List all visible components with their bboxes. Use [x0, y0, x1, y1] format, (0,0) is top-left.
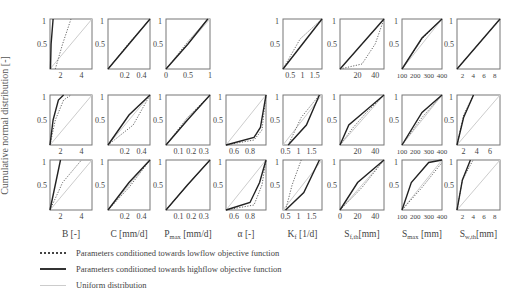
- y-tick-label: 0.5: [153, 116, 163, 125]
- x-tick-label: 0.1: [174, 147, 184, 156]
- y-tick-label: 0.5: [327, 181, 337, 190]
- y-tick-label: 0.5: [327, 40, 337, 49]
- panel-B-row1: 10.524: [37, 17, 92, 80]
- x-tick-label: 40: [371, 147, 379, 156]
- x-tick-label: 300: [423, 148, 434, 156]
- x-tick-label: 100: [397, 72, 408, 80]
- x-tick-label: 200: [410, 148, 421, 156]
- y-tick-label: 0.5: [444, 40, 454, 49]
- x-tick-label: 0.3: [199, 147, 209, 156]
- y-tick-label: 0.5: [270, 116, 280, 125]
- x-tick-label: 0.4: [137, 212, 147, 221]
- y-tick-label: 1: [42, 17, 46, 26]
- column-label-Sf_th: Sf,th[mm]: [344, 229, 379, 240]
- column-label-alpha: α [-]: [238, 229, 255, 239]
- panel-Smax-row3: 10.5100200300400: [389, 158, 448, 221]
- x-tick-label: 8: [493, 72, 497, 80]
- panel-C-row2: 10.50.20.4: [95, 93, 150, 156]
- panel-Sf_th-row2: 10.52040: [327, 93, 384, 156]
- panel-alpha-row2: 10.50.60.8: [213, 93, 266, 156]
- x-tick-label: 0: [338, 212, 342, 221]
- panel-Sf_th-row1: 10.52040: [327, 17, 384, 80]
- y-tick-label: 0.5: [37, 40, 47, 49]
- panel-Sw_th-row3: 10.52468: [444, 158, 500, 221]
- x-tick-label: 1.5: [307, 212, 317, 221]
- x-tick-label: 2: [59, 71, 63, 80]
- x-tick-label: 20: [354, 71, 362, 80]
- y-tick-label: 0.5: [37, 181, 47, 190]
- y-tick-label: 0.5: [95, 181, 105, 190]
- legend-label: Uniform distribution: [76, 280, 147, 290]
- light-line-swatch: [40, 285, 66, 286]
- x-tick-label: 0.1: [174, 212, 184, 221]
- y-tick-label: 1: [449, 17, 453, 26]
- y-tick-label: 0.5: [389, 40, 399, 49]
- panel-Smax-row1: 10.5100200300400: [389, 17, 448, 80]
- x-tick-label: 4: [471, 213, 475, 221]
- panel-Kf-row3: 10.50.511.5: [270, 158, 322, 221]
- y-tick-label: 1: [275, 93, 279, 102]
- y-tick-label: 0.5: [327, 116, 337, 125]
- y-tick-label: 1: [394, 93, 398, 102]
- column-label-C: C [mm/d]: [110, 229, 147, 239]
- x-tick-label: 400: [437, 213, 448, 221]
- x-tick-label: 4: [80, 212, 84, 221]
- y-tick-label: 1: [275, 17, 279, 26]
- x-tick-label: 0.8: [245, 147, 255, 156]
- x-tick-label: 0: [164, 71, 168, 80]
- x-tick-label: 20: [354, 147, 362, 156]
- y-tick-label: 1: [100, 17, 104, 26]
- y-tick-label: 0.5: [95, 116, 105, 125]
- x-tick-label: 100: [397, 148, 408, 156]
- x-tick-label: 1: [208, 71, 212, 80]
- x-tick-label: 100: [397, 213, 408, 221]
- x-tick-label: 1: [297, 212, 301, 221]
- y-tick-label: 1: [100, 158, 104, 167]
- x-tick-label: 2: [462, 147, 466, 156]
- panel-Sw_th-row1: 10.52468: [444, 17, 500, 80]
- panel-Sw_th-row2: 10.5246: [444, 93, 500, 156]
- panel-C-row1: 10.50.20.4: [95, 17, 150, 80]
- x-tick-label: 4: [475, 147, 479, 156]
- y-tick-label: 0.5: [153, 181, 163, 190]
- x-tick-label: 400: [437, 72, 448, 80]
- panel-B-row3: 10.524: [37, 158, 92, 221]
- x-tick-label: 1.5: [310, 71, 320, 80]
- dotted-line-swatch: [40, 252, 66, 254]
- y-tick-label: 1: [218, 158, 222, 167]
- column-label-Sw_th: Sw,th[mm]: [460, 229, 497, 240]
- panel-Pmax-row3: 10.50.10.20.3: [153, 158, 210, 221]
- x-tick-label: 400: [437, 148, 448, 156]
- column-label-Smax: Smax [mm]: [402, 229, 442, 240]
- x-tick-label: 0.5: [281, 212, 291, 221]
- y-tick-label: 0.5: [37, 116, 47, 125]
- x-tick-label: 4: [471, 72, 475, 80]
- x-tick-label: 0.2: [120, 212, 130, 221]
- y-tick-label: 0.5: [444, 181, 454, 190]
- panel-Smax-row2: 10.5100200300400: [389, 93, 448, 156]
- x-tick-label: 0.5: [281, 147, 291, 156]
- legend-label: Parameters conditioned towards lowflow o…: [76, 248, 279, 258]
- y-tick-label: 1: [100, 93, 104, 102]
- x-tick-label: 0.6: [229, 147, 239, 156]
- x-tick-label: 0.4: [137, 147, 147, 156]
- x-tick-label: 8: [493, 213, 497, 221]
- x-tick-label: 2: [461, 213, 465, 221]
- x-tick-label: 300: [423, 213, 434, 221]
- solid-line-swatch: [40, 268, 66, 270]
- y-tick-label: 1: [42, 93, 46, 102]
- x-tick-label: 20: [354, 212, 362, 221]
- column-label-Kf: Kf [1/d]: [288, 229, 318, 240]
- panel-Kf-row2: 10.50.511.5: [270, 93, 322, 156]
- x-tick-label: 0.3: [199, 212, 209, 221]
- y-tick-label: 1: [394, 17, 398, 26]
- y-tick-label: 1: [42, 158, 46, 167]
- panel-Pmax-row1: 10.500.51: [153, 17, 212, 80]
- y-tick-label: 0.5: [389, 116, 399, 125]
- x-tick-label: 0.5: [285, 71, 295, 80]
- y-tick-label: 0.5: [213, 181, 223, 190]
- panel-alpha-row3: 10.50.60.8: [213, 158, 266, 221]
- x-tick-label: 2: [59, 147, 63, 156]
- y-tick-label: 0.5: [444, 116, 454, 125]
- x-tick-label: 40: [371, 212, 379, 221]
